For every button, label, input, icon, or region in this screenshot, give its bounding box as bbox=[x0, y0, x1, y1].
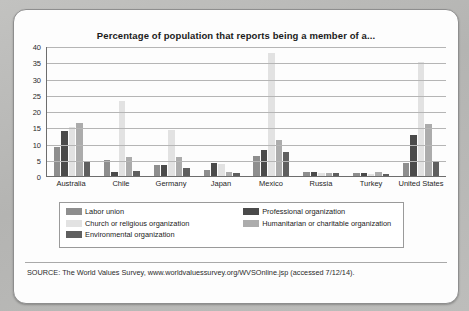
gridline bbox=[47, 161, 446, 162]
legend-item-label: Professional organization bbox=[262, 207, 345, 216]
bar bbox=[311, 172, 317, 176]
gridline bbox=[47, 145, 446, 146]
bar bbox=[253, 156, 259, 176]
plot-canvas bbox=[46, 47, 446, 177]
bar bbox=[283, 152, 289, 176]
legend-swatch-icon bbox=[66, 231, 82, 238]
y-axis-tick: 40 bbox=[33, 43, 41, 52]
gridline bbox=[47, 80, 446, 81]
gridline bbox=[47, 128, 446, 129]
bar bbox=[361, 173, 367, 176]
source-note: SOURCE: The World Values Survey, www.wor… bbox=[27, 268, 447, 277]
y-axis-tick: 35 bbox=[33, 59, 41, 68]
bar bbox=[233, 173, 239, 176]
y-axis-tick: 5 bbox=[37, 156, 41, 165]
x-axis-label: Mexico bbox=[246, 179, 296, 203]
bar bbox=[303, 172, 309, 176]
legend-swatch-icon bbox=[243, 208, 259, 215]
x-axis-labels: AustraliaChileGermanyJapanMexicoRussiaTu… bbox=[46, 179, 446, 203]
bar bbox=[104, 160, 110, 176]
bar bbox=[410, 135, 416, 176]
bar bbox=[318, 173, 324, 176]
bar bbox=[211, 163, 217, 176]
bar bbox=[76, 123, 82, 176]
x-axis-label: Japan bbox=[196, 179, 246, 203]
bar bbox=[353, 173, 359, 176]
bar bbox=[383, 174, 389, 176]
bar bbox=[368, 174, 374, 176]
legend-item: Church or religious organization bbox=[66, 219, 237, 228]
bar bbox=[69, 127, 75, 176]
chart-title: Percentage of population that reports be… bbox=[14, 30, 458, 41]
y-axis-tick: 0 bbox=[37, 173, 41, 182]
bar bbox=[375, 172, 381, 176]
bar bbox=[154, 165, 160, 176]
source-divider bbox=[25, 262, 447, 263]
x-axis-label: Turkey bbox=[346, 179, 396, 203]
x-axis-label: Australia bbox=[46, 179, 96, 203]
y-axis-tick: 15 bbox=[33, 124, 41, 133]
legend-item: Labor union bbox=[66, 207, 237, 216]
legend-column-one: Labor unionChurch or religious organizat… bbox=[66, 207, 237, 243]
figure-inner: Percentage of population that reports be… bbox=[14, 10, 458, 303]
y-axis-tick: 20 bbox=[33, 108, 41, 117]
bar bbox=[226, 172, 232, 176]
legend-item-label: Church or religious organization bbox=[85, 219, 189, 228]
bar bbox=[133, 171, 139, 176]
y-axis-tick: 25 bbox=[33, 91, 41, 100]
figure-card: Percentage of population that reports be… bbox=[13, 9, 459, 304]
bar bbox=[218, 164, 224, 176]
x-axis-label: Russia bbox=[296, 179, 346, 203]
bar bbox=[433, 161, 439, 176]
legend-item: Professional organization bbox=[243, 207, 397, 216]
bar bbox=[161, 165, 167, 176]
x-axis-label: Germany bbox=[146, 179, 196, 203]
gridline bbox=[47, 112, 446, 113]
bar bbox=[333, 173, 339, 176]
y-axis: 0510152025303540 bbox=[24, 47, 44, 177]
legend-swatch-icon bbox=[66, 208, 82, 215]
legend-item-label: Humanitarian or charitable organization bbox=[262, 219, 391, 228]
bar bbox=[261, 150, 267, 176]
bar bbox=[168, 130, 174, 176]
y-axis-tick: 30 bbox=[33, 75, 41, 84]
bar bbox=[276, 140, 282, 176]
legend-swatch-icon bbox=[66, 220, 82, 227]
bar bbox=[111, 172, 117, 176]
legend-item: Humanitarian or charitable organization bbox=[243, 219, 397, 228]
bar bbox=[326, 173, 332, 176]
bar bbox=[204, 170, 210, 177]
legend-item-label: Environmental organization bbox=[85, 230, 175, 239]
y-axis-tick: 10 bbox=[33, 140, 41, 149]
legend-column-two: Professional organizationHumanitarian or… bbox=[243, 207, 397, 243]
bar bbox=[268, 53, 274, 177]
legend-item: Environmental organization bbox=[66, 230, 237, 239]
bar bbox=[425, 124, 431, 176]
x-axis-label: United States bbox=[396, 179, 446, 203]
bar bbox=[61, 131, 67, 176]
gridline bbox=[47, 96, 446, 97]
bar bbox=[403, 163, 409, 176]
chart-plot-area: 0510152025303540 AustraliaChileGermanyJa… bbox=[24, 47, 448, 195]
x-axis-label: Chile bbox=[96, 179, 146, 203]
legend-columns: Labor unionChurch or religious organizat… bbox=[66, 207, 397, 243]
gridline bbox=[47, 47, 446, 48]
legend-swatch-icon bbox=[243, 220, 259, 227]
bar bbox=[84, 162, 90, 176]
chart-legend: Labor unionChurch or religious organizat… bbox=[59, 202, 404, 248]
legend-item-label: Labor union bbox=[85, 207, 124, 216]
bar bbox=[183, 168, 189, 176]
gridline bbox=[47, 63, 446, 64]
